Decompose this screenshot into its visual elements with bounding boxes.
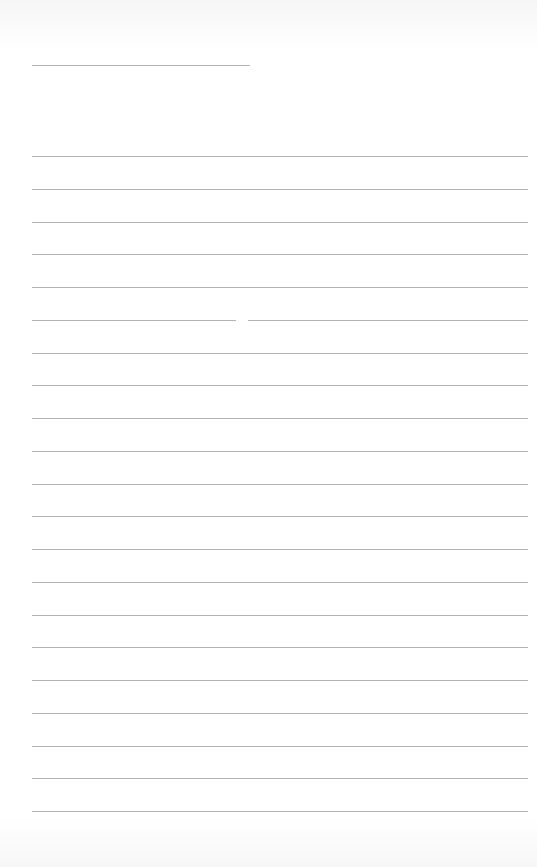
rule-line	[32, 385, 528, 386]
rule-line	[32, 778, 528, 779]
rule-line	[32, 516, 528, 517]
rule-line	[32, 549, 528, 550]
rule-line	[32, 484, 528, 485]
rule-line	[32, 811, 528, 812]
rule-line	[32, 189, 528, 190]
rule-line	[32, 353, 528, 354]
rule-line	[32, 713, 528, 714]
rule-line	[32, 451, 528, 452]
rule-line	[32, 222, 528, 223]
header-rule-line	[32, 65, 250, 66]
rule-line	[32, 156, 528, 157]
rule-line	[32, 615, 528, 616]
rule-line	[32, 647, 528, 648]
rule-line	[32, 746, 528, 747]
lined-paper-page	[0, 0, 537, 867]
rule-line	[32, 418, 528, 419]
rule-line	[248, 320, 528, 321]
rule-line	[32, 287, 528, 288]
rule-line	[32, 582, 528, 583]
rule-line	[32, 320, 236, 321]
rule-line	[32, 254, 528, 255]
rule-line	[32, 680, 528, 681]
